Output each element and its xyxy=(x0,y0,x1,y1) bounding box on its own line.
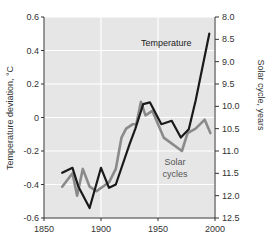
chart: 0.60.40.20-0.2-0.4-0.6 8.08.59.09.510.01… xyxy=(0,0,266,249)
tick-label: 11.0 xyxy=(222,146,239,156)
tick-label: 12.0 xyxy=(222,191,240,201)
annotation-cycles: cycles xyxy=(162,169,188,179)
tick-label: 2000 xyxy=(205,224,225,234)
tick-label: -0.6 xyxy=(23,213,39,223)
tick-label: 9.5 xyxy=(222,79,235,89)
y-axis-label-right: Solar cycle, years xyxy=(256,59,266,131)
annotation-temperature: Temperature xyxy=(141,38,192,48)
tick-label: 12.5 xyxy=(222,213,240,223)
right-axis-ticks: 8.08.59.09.510.010.511.011.512.012.5 xyxy=(215,12,240,223)
bottom-axis-ticks: 1850190019502000 xyxy=(34,218,225,234)
tick-label: 0.2 xyxy=(26,79,39,89)
tick-label: 0.4 xyxy=(26,46,39,56)
tick-label: 8.0 xyxy=(222,12,235,22)
tick-label: 10.5 xyxy=(222,124,240,134)
tick-label: 8.5 xyxy=(222,34,235,44)
tick-label: 1950 xyxy=(148,224,168,234)
tick-label: -0.2 xyxy=(23,146,39,156)
annotation-solar: Solar xyxy=(164,157,185,167)
left-axis-ticks: 0.60.40.20-0.2-0.4-0.6 xyxy=(23,12,44,223)
tick-label: 9.0 xyxy=(222,57,235,67)
tick-label: 11.5 xyxy=(222,168,239,178)
tick-label: -0.4 xyxy=(23,180,39,190)
tick-label: 10.0 xyxy=(222,101,240,111)
tick-label: 1900 xyxy=(91,224,111,234)
tick-label: 0 xyxy=(34,113,39,123)
y-axis-label-left: Temperature deviation, °C xyxy=(5,65,15,170)
tick-label: 1850 xyxy=(34,224,54,234)
tick-label: 0.6 xyxy=(26,12,39,22)
